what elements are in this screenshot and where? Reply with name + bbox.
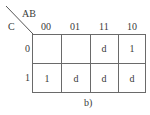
col-header-00: 00	[41, 22, 51, 32]
kmap-cell-r0-c2: d	[90, 34, 118, 63]
col-header-01: 01	[70, 22, 80, 32]
kmap-cell-r1-c2: d	[90, 64, 118, 93]
row-variable-label: C	[8, 22, 15, 32]
kmap-cell-r1-c1: d	[62, 64, 90, 93]
kmap-cell-r0-c3: 1	[118, 34, 146, 63]
col-header-10: 10	[127, 22, 137, 32]
column-variable-label: AB	[22, 9, 36, 19]
kmap-cell-r1-c3: d	[118, 64, 146, 93]
col-header-11: 11	[99, 22, 109, 32]
row-header-1: 1	[25, 73, 30, 83]
figure-caption: b)	[84, 98, 92, 108]
kmap-cell-r0-c0	[33, 34, 61, 63]
kmap-cell-r1-c0: 1	[33, 64, 61, 93]
kmap-cell-r0-c1	[62, 34, 90, 63]
row-header-0: 0	[25, 44, 30, 54]
